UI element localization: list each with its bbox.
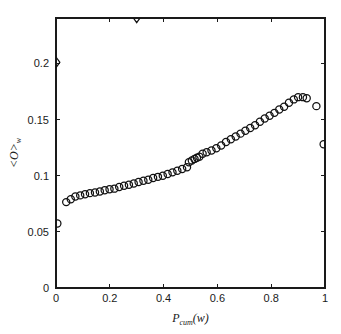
chart-canvas: 00.20.40.60.8100.050.10.150.2Pcum(w)<O>w bbox=[0, 0, 341, 334]
scatter-plot-figure: 00.20.40.60.8100.050.10.150.2Pcum(w)<O>w bbox=[0, 0, 341, 334]
x-tick-label-1: 0.2 bbox=[102, 292, 117, 304]
plot-frame bbox=[56, 18, 325, 288]
x-tick-label-2: 0.4 bbox=[156, 292, 171, 304]
x-tick-label-5: 1 bbox=[322, 292, 328, 304]
y-tick-label-1: 0.05 bbox=[28, 226, 49, 238]
x-axis-title: Pcum(w) bbox=[171, 311, 209, 327]
y-axis-title: <O>w bbox=[7, 137, 23, 168]
y-tick-label-3: 0.15 bbox=[28, 114, 49, 126]
y-tick-label-4: 0.2 bbox=[34, 57, 49, 69]
y-tick-label-2: 0.1 bbox=[34, 170, 49, 182]
svg-text:<O>w: <O>w bbox=[7, 137, 23, 168]
x-tick-label-3: 0.6 bbox=[210, 292, 225, 304]
svg-text:Pcum(w): Pcum(w) bbox=[171, 311, 209, 327]
x-tick-label-4: 0.8 bbox=[264, 292, 279, 304]
x-tick-label-0: 0 bbox=[53, 292, 59, 304]
y-tick-label-0: 0 bbox=[43, 282, 49, 294]
